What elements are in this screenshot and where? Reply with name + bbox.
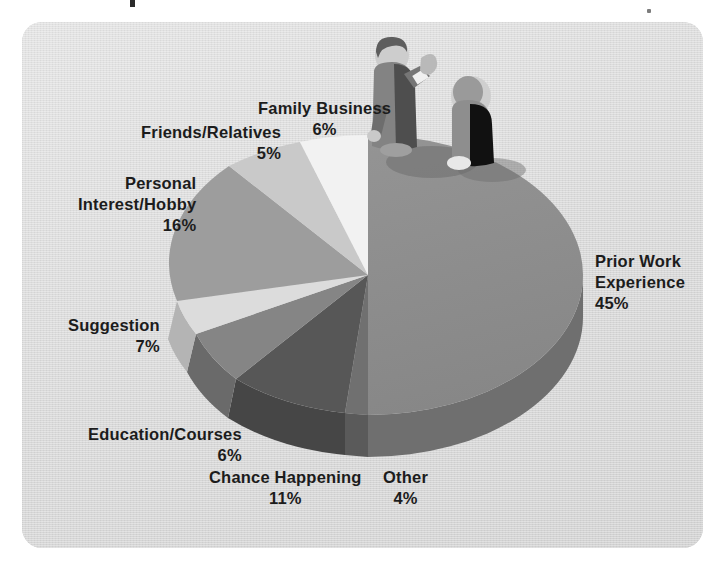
figure-seated-person <box>447 76 494 170</box>
pie-label-personal-hobby-text-2: Interest/Hobby <box>78 195 196 213</box>
pie-label-suggestion: Suggestion 7% <box>68 315 160 357</box>
pie-label-education-courses-text: Education/Courses <box>88 425 242 443</box>
chart-page: Family Business 6% Friends/Relatives 5% … <box>0 0 726 566</box>
pie-label-prior-work-text-2: Experience <box>595 273 685 291</box>
pie-label-suggestion-text: Suggestion <box>68 316 160 334</box>
pie-label-other-text: Other <box>383 468 428 486</box>
pie-label-personal-hobby-pct: 16% <box>78 215 196 236</box>
pie-label-friends-relatives: Friends/Relatives 5% <box>141 122 281 164</box>
pie-label-prior-work: Prior Work Experience 45% <box>595 251 685 314</box>
pie-label-chance-happening: Chance Happening 11% <box>209 467 362 509</box>
pie-label-suggestion-pct: 7% <box>68 336 160 357</box>
pie-label-personal-hobby-text-1: Personal <box>125 174 196 192</box>
pie-label-other-pct: 4% <box>383 488 428 509</box>
pie-label-prior-work-text-1: Prior Work <box>595 252 681 270</box>
pie-label-education-courses: Education/Courses 6% <box>88 424 242 466</box>
pie-label-friends-relatives-pct: 5% <box>141 143 281 164</box>
pie-label-other: Other 4% <box>383 467 428 509</box>
pie-label-education-courses-pct: 6% <box>88 445 242 466</box>
pie-label-family-business-text: Family Business <box>258 99 391 117</box>
pie-label-personal-hobby: Personal Interest/Hobby 16% <box>78 173 196 236</box>
pie-label-chance-happening-text: Chance Happening <box>209 468 362 486</box>
pie-slice-side-other <box>345 413 368 457</box>
pie-label-prior-work-pct: 45% <box>595 293 685 314</box>
pie-label-friends-relatives-text: Friends/Relatives <box>141 123 281 141</box>
pie-label-chance-happening-pct: 11% <box>209 488 362 509</box>
